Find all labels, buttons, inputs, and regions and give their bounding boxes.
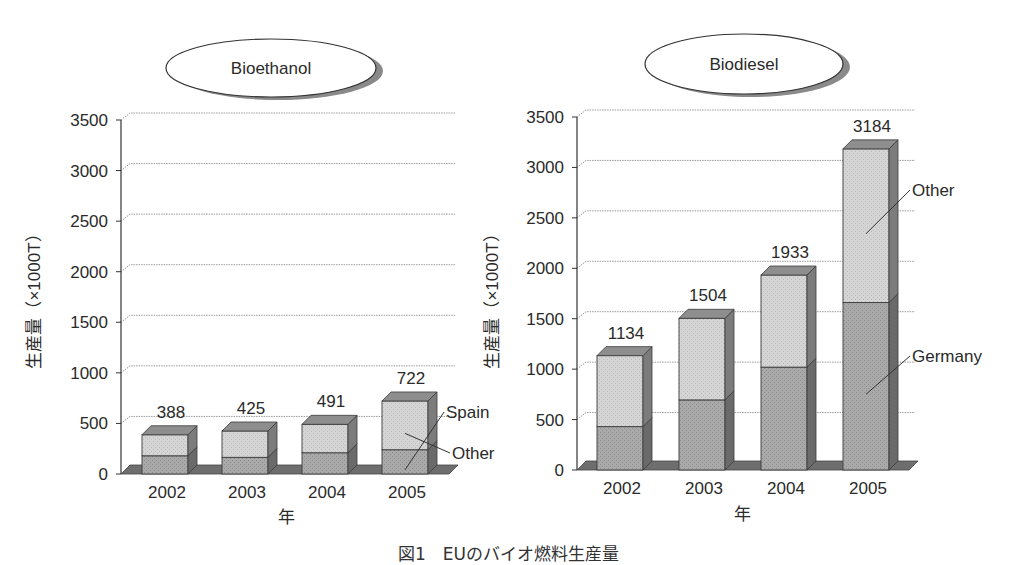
bar-stack-2003: 425	[222, 399, 277, 474]
bar-segment-other	[843, 149, 889, 303]
bar-stack-2005: 3184	[843, 117, 898, 470]
bar-side	[807, 266, 816, 367]
bar-segment-other	[382, 401, 428, 450]
x-tick-label: 2005	[849, 479, 887, 498]
bar-segment-germany	[679, 400, 725, 470]
bar-stack-2002: 1134	[597, 324, 652, 470]
y-tick-label: 1500	[70, 313, 108, 332]
gridline	[121, 265, 455, 272]
y-tick-label: 0	[99, 465, 108, 484]
y-tick-label: 500	[536, 411, 564, 430]
y-tick-label: 1000	[70, 364, 108, 383]
bar-side	[643, 347, 652, 427]
bar-segment-germany	[843, 303, 889, 470]
bar-segment-other	[142, 435, 188, 456]
bar-segment-other	[302, 424, 348, 452]
y-tick-label: 2500	[70, 212, 108, 231]
bar-segment-other	[679, 318, 725, 400]
y-axis-title: 生産量（×1000T）	[25, 225, 44, 368]
bar-segment-germany	[597, 427, 643, 470]
x-tick-label: 2005	[388, 483, 426, 502]
y-tick-label: 3000	[526, 158, 564, 177]
bar-total-label: 425	[237, 399, 265, 418]
chart-title: Biodiesel	[710, 55, 779, 74]
x-tick-label: 2004	[308, 483, 346, 502]
bar-segment-germany	[761, 367, 807, 470]
bar-side	[889, 140, 898, 303]
y-tick-label: 1000	[526, 360, 564, 379]
bar-segment-spain	[222, 457, 268, 474]
bar-segment-other	[761, 275, 807, 367]
figure-caption: 図1 EUのバイオ燃料生産量	[0, 540, 1017, 565]
chart-title: Bioethanol	[231, 59, 311, 78]
bar-side	[725, 309, 734, 400]
bar-segment-spain	[142, 456, 188, 474]
x-tick-label: 2003	[685, 479, 723, 498]
bar-top	[679, 309, 734, 318]
bar-top	[761, 266, 816, 275]
bar-top	[843, 140, 898, 149]
x-axis-title: 年	[278, 508, 295, 527]
bar-stack-2004: 491	[302, 392, 357, 474]
y-tick-label: 3000	[70, 162, 108, 181]
bar-top	[597, 347, 652, 356]
bar-side	[807, 358, 816, 470]
gridline	[121, 214, 455, 221]
bar-segment-other	[222, 431, 268, 457]
chart-title-badge: Bioethanol	[166, 39, 383, 100]
bar-total-label: 1504	[689, 286, 727, 305]
bar-stack-2005: 722	[382, 369, 437, 474]
bioethanol-chart: Bioethanol050010001500200025003000350038…	[25, 39, 495, 527]
x-tick-label: 2004	[767, 479, 805, 498]
series-label-spain: Spain	[446, 403, 489, 422]
bar-segment-other	[597, 356, 643, 427]
y-tick-label: 2000	[70, 263, 108, 282]
bar-total-label: 3184	[853, 117, 891, 136]
bar-stack-2002: 388	[142, 403, 197, 474]
x-tick-label: 2002	[148, 483, 186, 502]
y-tick-label: 500	[80, 414, 108, 433]
gridline	[121, 113, 455, 120]
y-tick-label: 3500	[70, 111, 108, 130]
y-tick-label: 3500	[526, 108, 564, 127]
y-tick-label: 0	[555, 461, 564, 480]
y-axis-title: 生産量（×1000T）	[483, 225, 502, 368]
bar-total-label: 722	[397, 369, 425, 388]
bar-side	[725, 391, 734, 470]
biodiesel-chart: Biodiesel0500100015002000250030003500113…	[483, 34, 982, 524]
x-axis-title: 年	[734, 505, 751, 524]
series-label-other: Other	[452, 444, 495, 463]
chart-title-badge: Biodiesel	[645, 34, 850, 97]
y-tick-label: 1500	[526, 310, 564, 329]
y-tick-label: 2000	[526, 259, 564, 278]
bar-stack-2004: 1933	[761, 243, 816, 470]
bar-total-label: 491	[317, 392, 345, 411]
bar-top	[222, 422, 277, 431]
gridline	[121, 164, 455, 171]
bar-stack-2003: 1504	[679, 286, 734, 470]
bar-top	[142, 426, 197, 435]
x-tick-label: 2003	[228, 483, 266, 502]
bar-total-label: 1134	[608, 324, 645, 343]
x-tick-label: 2002	[603, 479, 641, 498]
gridline	[121, 315, 455, 322]
bar-total-label: 388	[157, 403, 185, 422]
bar-segment-spain	[302, 453, 348, 474]
series-label-other: Other	[912, 181, 955, 200]
y-tick-label: 2500	[526, 209, 564, 228]
bar-top	[382, 392, 437, 401]
bar-side	[889, 294, 898, 470]
series-label-germany: Germany	[912, 347, 982, 366]
bar-top	[302, 415, 357, 424]
bar-side	[428, 392, 437, 450]
bar-segment-spain	[382, 450, 428, 474]
bar-total-label: 1933	[771, 243, 809, 262]
